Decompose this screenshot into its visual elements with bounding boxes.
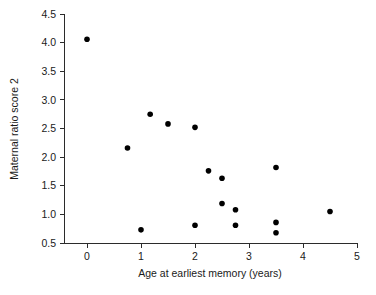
scatter-chart: 0.51.01.52.02.53.03.54.04.5 Maternal rat… [0,0,376,295]
x-tick-label: 1 [138,250,144,262]
x-tick-label: 0 [84,250,90,262]
y-axis-title: Maternal ratio score 2 [8,78,20,180]
plot-area: 0.51.01.52.02.53.03.54.04.5 Maternal rat… [0,0,376,295]
data-point [165,121,171,127]
y-tick-label: 2.0 [41,151,56,163]
x-axis-ticks: 012345 [84,243,360,262]
x-axis: 012345 Age at earliest memory (years) [64,243,360,279]
data-point [192,222,198,228]
data-point [327,209,333,215]
y-tick-label: 1.5 [41,179,56,191]
data-point [233,222,239,228]
x-axis-title: Age at earliest memory (years) [138,267,282,279]
data-point [219,201,225,207]
x-tick-label: 3 [246,250,252,262]
y-tick-label: 2.5 [41,122,56,134]
y-axis: 0.51.01.52.02.53.03.54.04.5 Maternal rat… [8,8,64,249]
data-point [219,176,225,182]
x-tick-label: 2 [192,250,198,262]
y-tick-label: 0.5 [41,237,56,249]
y-tick-label: 4.0 [41,36,56,48]
x-tick-label: 4 [300,250,306,262]
data-point [138,227,144,233]
y-tick-label: 1.0 [41,208,56,220]
y-tick-label: 4.5 [41,8,56,20]
data-point [84,36,90,42]
y-tick-label: 3.0 [41,94,56,106]
data-point [125,145,131,151]
data-point [147,111,153,117]
data-points-layer [84,36,333,235]
data-point [273,165,279,171]
data-point [273,230,279,236]
y-axis-ticks: 0.51.01.52.02.53.03.54.04.5 [41,8,64,249]
x-tick-label: 5 [354,250,360,262]
data-point [273,220,279,226]
data-point [192,125,198,131]
data-point [233,207,239,213]
y-tick-label: 3.5 [41,65,56,77]
data-point [206,168,212,174]
